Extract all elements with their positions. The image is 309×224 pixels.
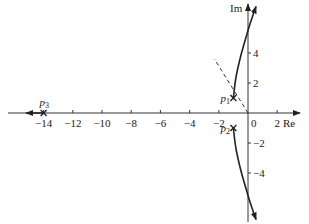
y-tick-label: 2 bbox=[253, 77, 259, 89]
damping-line bbox=[214, 59, 248, 113]
pole-p2-label: p2 bbox=[219, 122, 230, 136]
x-tick-label: −4 bbox=[184, 117, 196, 129]
pole-p1-label: p1 bbox=[219, 92, 230, 106]
x-tick-label: −10 bbox=[93, 117, 111, 129]
x-tick-label: −6 bbox=[155, 117, 167, 129]
x-tick-label: −12 bbox=[64, 117, 81, 129]
y-axis-label: Im bbox=[230, 2, 243, 14]
x-tick-label: −8 bbox=[125, 117, 137, 129]
y-tick-label: −2 bbox=[253, 137, 265, 149]
root-locus-plot: −14−12−10−8−6−4−202−4−224 p1p2p3 ReIm bbox=[0, 0, 309, 224]
axis-labels: ReIm bbox=[230, 2, 295, 129]
axes bbox=[8, 4, 300, 222]
poles: p1p2p3 bbox=[39, 92, 237, 136]
x-tick-label: 2 bbox=[274, 117, 280, 129]
pole-p3-label: p3 bbox=[39, 96, 50, 110]
y-tick-label: 4 bbox=[253, 47, 259, 59]
y-tick-label: −4 bbox=[253, 167, 265, 179]
x-axis-label: Re bbox=[283, 117, 295, 129]
x-tick-label: 0 bbox=[251, 117, 257, 129]
damping-ratio-line bbox=[214, 59, 248, 113]
x-tick-label: −14 bbox=[35, 117, 53, 129]
